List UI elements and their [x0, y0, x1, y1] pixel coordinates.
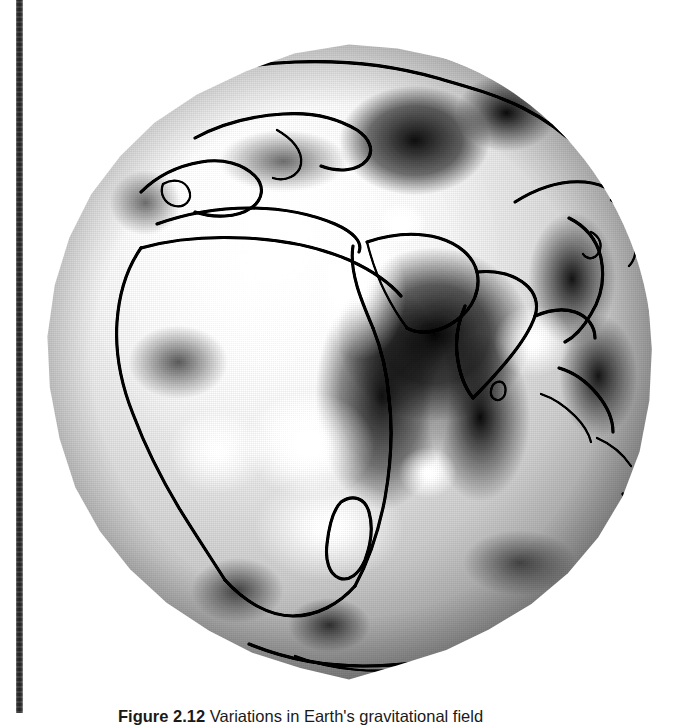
figure-image	[0, 0, 684, 700]
coastline-india	[456, 272, 536, 399]
coastline-baltic	[273, 130, 301, 179]
globe-illustration	[45, 42, 653, 682]
coastline-africa-south	[225, 580, 355, 616]
coastline-japan	[611, 200, 636, 266]
coastline-indonesia-islands	[541, 394, 591, 442]
globe-sphere	[45, 42, 653, 682]
coastline-red-sea-east	[367, 242, 407, 328]
caption-text: Variations in Earth's gravitational fiel…	[210, 707, 483, 725]
coastline-east-asia	[515, 182, 629, 210]
figure-caption-clip: Figure 2.12 Variations in Earth's gravit…	[0, 706, 684, 725]
coastline-british-isles	[162, 181, 190, 207]
figure-caption: Figure 2.12 Variations in Earth's gravit…	[118, 706, 678, 725]
coastline-indonesia	[559, 368, 613, 432]
coastline-arctic	[165, 62, 581, 150]
coastline-antarctica	[249, 620, 543, 666]
coastline-new-guinea	[597, 438, 631, 466]
coastline-sri-lanka	[491, 382, 506, 400]
coastline-red-sea	[352, 246, 373, 328]
coastline-antarctica-inner	[295, 644, 497, 671]
caption-label: Figure	[118, 707, 168, 725]
caption-number: 2.12	[173, 707, 205, 725]
coastline-australia	[623, 494, 645, 534]
coastline-africa-east	[355, 328, 391, 586]
coastline-mediterranean-north	[157, 208, 360, 252]
coastline-africa-west	[117, 248, 225, 580]
coastline-overlay	[45, 42, 653, 682]
coastline-north-africa	[141, 237, 401, 296]
